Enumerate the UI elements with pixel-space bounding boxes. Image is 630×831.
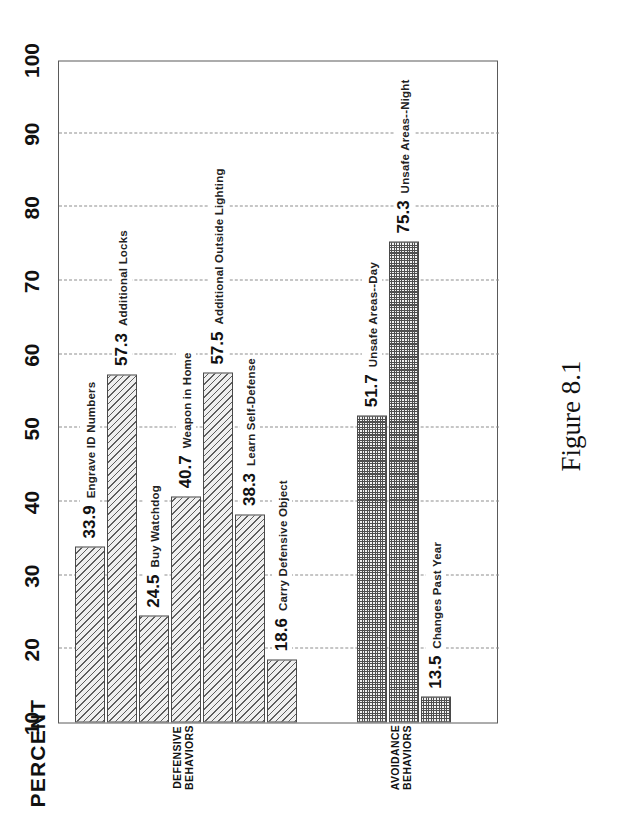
bar-category-label: Engrave ID Numbers: [85, 381, 97, 498]
bar-category-label: Carry Defensive Object: [277, 480, 289, 611]
bar-annotation: 51.7Unsafe Areas--Day: [362, 259, 382, 408]
bar: [421, 696, 451, 722]
group-label: DEFENSIVE BEHAVIORS: [171, 697, 196, 817]
bar-annotation: 33.9Engrave ID Numbers: [80, 379, 100, 540]
figure-caption: Figure 8.1: [556, 0, 587, 831]
axis-tick-label: 50: [20, 417, 44, 440]
bar-annotation: 18.6Carry Defensive Object: [272, 478, 292, 653]
bar-category-label: Unsafe Areas--Day: [367, 261, 379, 366]
bar-annotation: 40.7Weapon in Home: [176, 350, 196, 490]
axis-tick-label: 10: [20, 711, 44, 734]
bar-value: 51.7: [362, 374, 382, 407]
axis-tick-label: 40: [20, 490, 44, 513]
bar-annotation: 75.3Unsafe Areas--Night: [394, 77, 414, 235]
bar-category-label: Changes Past Year: [431, 541, 443, 648]
bar-category-label: Unsafe Areas--Night: [399, 79, 411, 193]
bar: [267, 659, 297, 722]
axis-tick-label: 60: [20, 343, 44, 366]
bar-annotation: 13.5Changes Past Year: [426, 539, 446, 690]
bar-value: 18.6: [272, 618, 292, 651]
gridline: [59, 205, 499, 206]
axis-tick-label: 80: [20, 196, 44, 219]
bar: [171, 496, 201, 722]
axis-tick-label: 100: [20, 42, 44, 77]
bar-category-label: Buy Watchdog: [149, 485, 161, 567]
bar-category-label: Additional Outside Lighting: [213, 168, 225, 324]
bar-annotation: 24.5Buy Watchdog: [144, 483, 164, 610]
bar: [107, 374, 137, 722]
bar-annotation: 57.3Additional Locks: [112, 228, 132, 368]
plot-area: 33.9Engrave ID Numbers57.3Additional Loc…: [58, 60, 498, 723]
axis-tick-label: 90: [20, 122, 44, 145]
bar-annotation: 38.3Learn Self-Defense: [240, 356, 260, 508]
bar-value: 13.5: [426, 655, 446, 688]
figure-container: PERCENT 102030405060708090100 33.9Engrav…: [0, 0, 630, 831]
bar-value: 33.9: [80, 505, 100, 538]
bar: [357, 415, 387, 722]
bar: [139, 615, 169, 722]
bar-category-label: Learn Self-Defense: [245, 358, 257, 466]
bar-value: 57.3: [112, 332, 132, 365]
gridline: [59, 353, 499, 354]
axis-tick-label: 70: [20, 269, 44, 292]
bar: [203, 372, 233, 722]
bar-annotation: 57.5Additional Outside Lighting: [208, 166, 228, 366]
bar-category-label: Additional Locks: [117, 230, 129, 326]
value-axis-tick-layer: 102030405060708090100: [20, 60, 50, 723]
group-label: AVOIDANCE BEHAVIORS: [389, 697, 414, 817]
bar-value: 40.7: [176, 455, 196, 488]
gridline: [59, 132, 499, 133]
bar: [75, 546, 105, 722]
bar: [389, 241, 419, 722]
axis-tick-label: 20: [20, 638, 44, 661]
rotated-page-wrapper: PERCENT 102030405060708090100 33.9Engrav…: [0, 0, 630, 831]
bar-value: 57.5: [208, 331, 228, 364]
bar: [235, 514, 265, 722]
bar-value: 75.3: [394, 200, 414, 233]
gridline: [59, 279, 499, 280]
bar-category-label: Weapon in Home: [181, 352, 193, 448]
axis-tick-label: 30: [20, 564, 44, 587]
bar-value: 24.5: [144, 574, 164, 607]
